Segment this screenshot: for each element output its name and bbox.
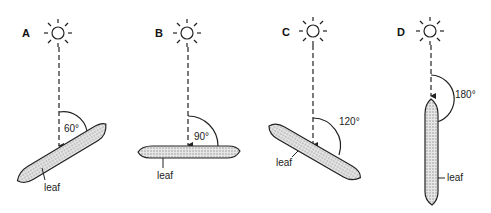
- sun-icon: [44, 19, 72, 47]
- sun-icon: [173, 19, 201, 47]
- panel-a: A 60° leaf: [14, 19, 111, 193]
- panel-label-b: B: [155, 27, 163, 39]
- leaf-shape: [138, 146, 240, 158]
- angle-label-c: 120°: [339, 116, 360, 127]
- panel-label-c: C: [282, 26, 290, 38]
- leaf-light-angle-diagram: A 60° leaf B: [0, 0, 491, 213]
- leaf-label-d: leaf: [447, 172, 463, 183]
- sun-icon: [299, 17, 327, 45]
- leaf-label-c: leaf: [276, 157, 292, 168]
- panel-d: D 180° leaf: [397, 17, 476, 205]
- leaf-shape: [425, 99, 438, 205]
- panel-label-a: A: [22, 27, 30, 39]
- angle-label-a: 60°: [64, 123, 79, 134]
- leaf-pointer: [292, 151, 298, 157]
- leaf-label-a: leaf: [44, 182, 60, 193]
- angle-label-d: 180°: [455, 89, 476, 100]
- panel-label-d: D: [397, 26, 405, 38]
- panel-b: B 90° leaf: [138, 19, 240, 181]
- leaf-shape: [14, 121, 111, 187]
- leaf-shape: [265, 120, 363, 185]
- leaf-label-b: leaf: [157, 170, 173, 181]
- angle-label-b: 90°: [194, 131, 209, 142]
- sun-icon: [416, 17, 444, 45]
- panel-c: C 120° leaf: [265, 17, 363, 185]
